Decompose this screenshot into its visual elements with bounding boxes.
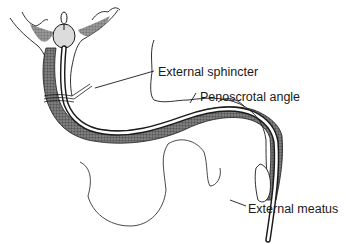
label-penoscrotal-angle: Penoscrotal angle: [200, 91, 300, 104]
scrotum: [80, 140, 220, 226]
label-external-meatus: External meatus: [248, 203, 338, 216]
glans: [255, 164, 270, 202]
label-external-sphincter: External sphincter: [158, 66, 258, 79]
catheter-balloon: [53, 12, 75, 48]
